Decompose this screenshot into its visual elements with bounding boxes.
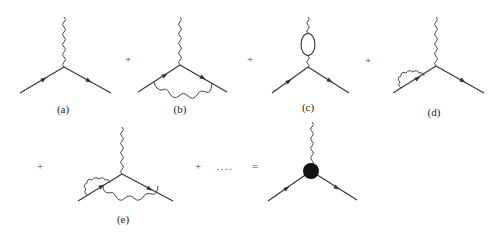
fermion-arrow-icon xyxy=(85,78,92,85)
diagram-e: (e) xyxy=(78,127,173,226)
outgoing-fermion-line xyxy=(311,171,357,200)
fermion-arrow-icon xyxy=(146,186,153,193)
internal-photon-line-icon xyxy=(154,82,212,98)
fermion-arrow-icon xyxy=(199,75,206,82)
fermion-loop xyxy=(301,34,315,56)
diagram-d: (d) xyxy=(393,17,484,119)
equals-sign: = xyxy=(252,160,258,172)
fermion-arrow-icon xyxy=(459,78,466,85)
diagram-b: (b) xyxy=(138,17,227,116)
diagram-c: (c) xyxy=(272,17,349,114)
incoming-fermion-line xyxy=(138,65,180,92)
photon-line-icon xyxy=(121,127,124,174)
diagram-full-vertex xyxy=(268,122,357,201)
photon-line-icon xyxy=(311,122,314,165)
plus-sign: + xyxy=(247,53,253,65)
incoming-fermion-line xyxy=(393,66,436,93)
diagram-label-c: (c) xyxy=(302,101,315,114)
fermion-arrow-icon xyxy=(40,76,47,83)
ellipsis: .... xyxy=(217,160,234,172)
photon-line-icon xyxy=(435,17,438,66)
photon-line-icon xyxy=(179,17,182,65)
diagram-label-e: (e) xyxy=(117,213,130,226)
plus-sign: + xyxy=(37,160,43,172)
dressed-vertex-blob-icon xyxy=(303,163,319,179)
feynman-diagram-canvas: (a) + (b) + (c) + (d) + xyxy=(0,0,503,235)
outgoing-fermion-line xyxy=(436,66,484,93)
diagram-label-d: (d) xyxy=(428,106,441,119)
photon-line-icon xyxy=(63,17,66,67)
diagram-label-b: (b) xyxy=(174,103,187,116)
plus-sign: + xyxy=(125,53,131,65)
photon-line-icon xyxy=(307,17,310,33)
diagram-label-a: (a) xyxy=(57,103,70,116)
self-energy-photon-icon xyxy=(398,71,424,88)
diagram-a: (a) xyxy=(20,17,111,116)
plus-sign: + xyxy=(195,160,201,172)
plus-sign: + xyxy=(365,54,371,66)
photon-line-icon xyxy=(307,56,310,67)
fermion-arrow-icon xyxy=(326,78,333,85)
